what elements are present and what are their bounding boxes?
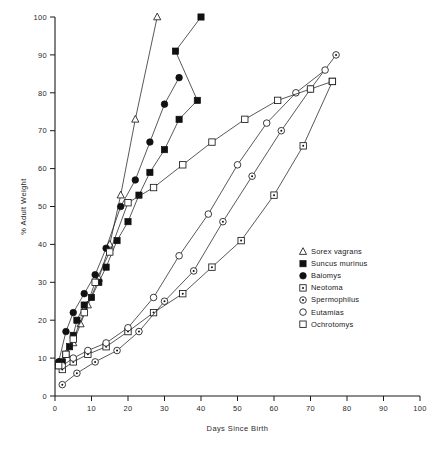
data-point xyxy=(209,139,215,145)
data-point xyxy=(307,86,313,92)
data-point-center-dot xyxy=(94,361,96,363)
data-point xyxy=(132,177,139,184)
legend-label: Neotoma xyxy=(311,283,343,292)
data-point xyxy=(322,67,329,74)
data-point-center-dot xyxy=(116,350,118,352)
legend-item-suncus-murinus[interactable]: Suncus murinus xyxy=(300,259,368,268)
legend-item-baiomys[interactable]: Baiomys xyxy=(300,271,342,280)
data-point xyxy=(74,317,80,323)
data-point xyxy=(180,162,186,168)
y-tick-label: 60 xyxy=(38,164,47,173)
data-point xyxy=(63,351,69,357)
data-point-center-dot xyxy=(240,240,242,242)
y-tick-label: 0 xyxy=(43,392,47,401)
chart-legend: Sorex vagransSuncus murinusBaiomysNeotom… xyxy=(299,247,367,329)
x-axis-title: Days Since Birth xyxy=(207,424,269,433)
x-tick-label: 60 xyxy=(270,404,279,413)
data-point xyxy=(198,14,204,20)
data-point xyxy=(125,219,131,225)
x-tick-label: 10 xyxy=(87,404,96,413)
y-axis-ticks: 0102030405060708090100 xyxy=(34,13,55,401)
legend-marker-filled-circle xyxy=(300,273,307,280)
legend-item-ochrotomys[interactable]: Ochrotomys xyxy=(300,320,354,329)
data-point xyxy=(147,169,153,175)
data-point xyxy=(85,347,92,354)
legend-item-sorex-vagrans[interactable]: Sorex vagrans xyxy=(299,247,362,256)
legend-marker-open-triangle xyxy=(299,248,306,255)
series-suncus-murinus xyxy=(56,14,205,369)
data-point-center-dot xyxy=(61,384,63,386)
data-point xyxy=(172,48,178,54)
legend-marker-open-square xyxy=(300,321,306,327)
data-point xyxy=(176,252,183,259)
x-tick-label: 70 xyxy=(306,404,315,413)
data-point xyxy=(107,249,113,255)
data-point xyxy=(70,309,77,316)
legend-label: Spermophilus xyxy=(311,295,359,304)
x-tick-label: 0 xyxy=(53,404,57,413)
y-tick-label: 70 xyxy=(38,126,47,135)
x-tick-label: 80 xyxy=(343,404,352,413)
y-tick-label: 100 xyxy=(34,13,47,22)
data-point-center-dot xyxy=(138,331,140,333)
y-tick-label: 50 xyxy=(38,202,47,211)
data-point xyxy=(176,116,182,122)
data-point-center-dot xyxy=(280,130,282,132)
data-point-center-dot xyxy=(251,175,253,177)
series-neotoma xyxy=(59,78,336,372)
data-point xyxy=(70,336,76,342)
legend-marker-open-circle xyxy=(300,309,307,316)
legend-label: Ochrotomys xyxy=(311,320,353,329)
data-point xyxy=(176,74,183,81)
legend-marker-dotted-circle-center-dot xyxy=(302,299,304,301)
data-point xyxy=(117,191,124,198)
y-tick-label: 90 xyxy=(38,51,47,60)
data-point xyxy=(125,324,132,331)
legend-label: Suncus murinus xyxy=(311,259,368,268)
series-line xyxy=(62,70,325,366)
legend-item-spermophilus[interactable]: Spermophilus xyxy=(300,295,360,304)
data-point-center-dot xyxy=(222,221,224,223)
data-point-center-dot xyxy=(164,300,166,302)
data-point xyxy=(55,362,61,368)
data-point xyxy=(81,290,88,297)
data-point xyxy=(150,294,157,301)
data-point xyxy=(150,184,156,190)
growth-curve-chart: 0102030405060708090100 01020304050607080… xyxy=(0,0,442,449)
x-axis-ticks: 0102030405060708090100 xyxy=(53,396,427,413)
data-point xyxy=(154,13,161,20)
data-point xyxy=(205,211,212,218)
data-point-center-dot xyxy=(302,145,304,147)
y-tick-label: 80 xyxy=(38,89,47,98)
series-line xyxy=(62,81,332,369)
chart-root: 0102030405060708090100 01020304050607080… xyxy=(0,0,442,449)
legend-item-eutamias[interactable]: Eutamias xyxy=(300,308,344,317)
legend-label: Sorex vagrans xyxy=(311,247,362,256)
y-tick-label: 40 xyxy=(38,240,47,249)
data-point xyxy=(117,203,124,210)
series-line xyxy=(62,55,336,385)
data-point-center-dot xyxy=(335,54,337,56)
data-point xyxy=(147,139,154,146)
y-tick-label: 30 xyxy=(38,278,47,287)
data-point xyxy=(329,78,335,84)
axes-group xyxy=(55,17,420,396)
y-tick-label: 20 xyxy=(38,316,47,325)
data-point-center-dot xyxy=(182,293,184,295)
series-eutamias xyxy=(59,67,328,369)
legend-label: Baiomys xyxy=(311,271,341,280)
x-tick-label: 90 xyxy=(379,404,388,413)
y-axis-title: % Adult Weight xyxy=(19,178,28,235)
series-ochrotomys xyxy=(55,78,335,369)
legend-item-neotoma[interactable]: Neotoma xyxy=(300,283,344,292)
data-point xyxy=(92,279,98,285)
legend-marker-filled-square xyxy=(300,261,306,267)
series-line xyxy=(59,81,333,365)
data-point-center-dot xyxy=(211,266,213,268)
series-layer xyxy=(55,13,339,388)
data-point-center-dot xyxy=(76,372,78,374)
data-point xyxy=(274,97,280,103)
data-point xyxy=(132,115,139,122)
data-point xyxy=(103,264,109,270)
x-tick-label: 50 xyxy=(233,404,242,413)
